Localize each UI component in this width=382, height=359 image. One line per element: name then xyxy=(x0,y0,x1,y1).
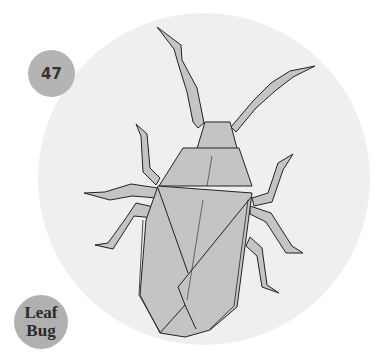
diagram-number-badge: 47 xyxy=(28,50,75,97)
antenna-left xyxy=(157,27,204,128)
leg-left-mid xyxy=(84,184,158,200)
leg-right-front xyxy=(252,154,293,206)
antenna-right xyxy=(231,66,315,132)
diagram-number: 47 xyxy=(41,65,62,83)
leg-left-front xyxy=(136,124,160,185)
title-line-1: Leaf xyxy=(24,304,57,322)
body xyxy=(140,186,252,337)
pronotum xyxy=(159,148,252,186)
leg-right-rear xyxy=(246,237,279,293)
title-line-2: Bug xyxy=(26,322,55,340)
diagram-title-badge: Leaf Bug xyxy=(14,295,68,349)
